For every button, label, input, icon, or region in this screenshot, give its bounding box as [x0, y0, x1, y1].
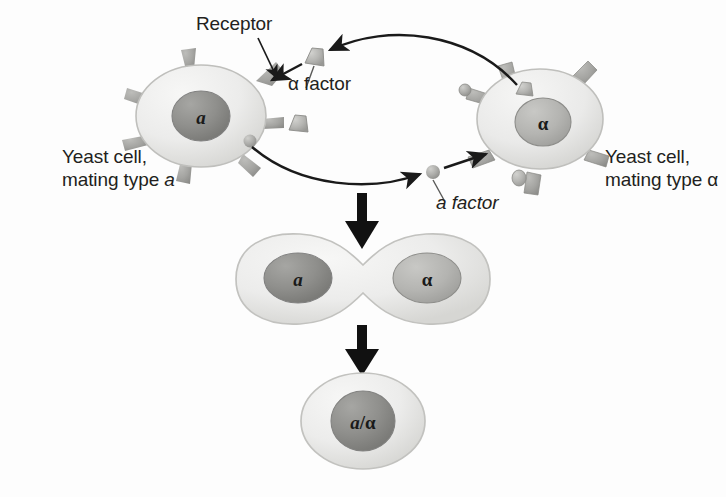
nucleus-label-a: a: [196, 107, 206, 128]
a-factor-origin-icon: [244, 135, 257, 148]
alpha-factor-path: [330, 35, 517, 85]
yeast-cell-alpha: α: [459, 61, 609, 195]
fused-cell: a α: [236, 234, 490, 324]
label-yeast-cell-alpha-line2-prefix: mating type: [605, 169, 707, 190]
diagram-canvas: a α: [0, 0, 726, 497]
fused-nucleus-label-alpha: α: [422, 269, 433, 290]
label-yeast-cell-alpha-type: α: [707, 169, 718, 190]
a-factor-icon: [426, 165, 440, 179]
nucleus-label-alpha: α: [538, 113, 549, 134]
alpha-factor-icon-secondary: [289, 115, 308, 132]
alpha-cell-bud-icon: [512, 170, 526, 186]
label-yeast-cell-a: Yeast cell,mating type a: [62, 145, 175, 191]
label-alpha-factor: α factor: [288, 72, 351, 95]
label-a-factor: a factor: [436, 191, 499, 214]
label-yeast-cell-alpha-line1: Yeast cell,: [605, 146, 690, 167]
a-factor-path: [252, 147, 420, 184]
label-a-factor-text: a factor: [436, 192, 499, 213]
a-factor-received-icon: [459, 84, 471, 96]
diploid-cell: a/α: [301, 373, 425, 469]
yeast-mating-diagram: a α: [0, 0, 726, 497]
fused-nucleus-label-a: a: [293, 269, 303, 290]
diploid-nucleus-label: a/α: [350, 412, 376, 433]
label-yeast-cell-a-line2-prefix: mating type: [62, 169, 164, 190]
label-yeast-cell-a-type: a: [164, 169, 174, 190]
label-yeast-cell-a-line1: Yeast cell,: [62, 146, 147, 167]
label-receptor: Receptor: [196, 12, 272, 35]
label-yeast-cell-alpha: Yeast cell,mating type α: [605, 145, 718, 191]
alpha-factor-icon: [305, 48, 324, 66]
receptor-icon: [256, 62, 284, 86]
stage-arrow-diploid: [345, 325, 379, 376]
stage-arrow-fusion: [345, 193, 379, 249]
